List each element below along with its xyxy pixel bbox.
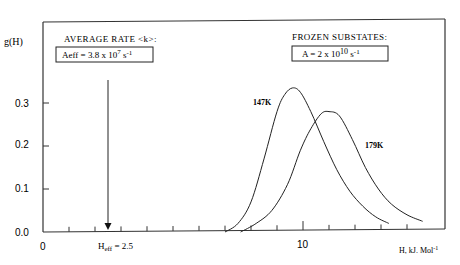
x-axis-label: H, kJ. Mol-1 [399,245,438,255]
y-tick-label-0.2: 0.2 [15,139,29,150]
aeff-text: Aeff = 3.8 x 107 s-1 [62,48,133,60]
y-tick-label-0.3: 0.3 [15,98,29,109]
curve-label-179k: 179K [365,141,384,150]
heff-label: Heff = 2.5 [98,241,133,253]
y-axis-label: g(H) [4,36,23,48]
x-tick-label-10: 10 [297,239,309,250]
average-rate-heading: AVERAGE RATE <k>: [64,34,157,44]
y-ticks [43,103,49,189]
a-text: A = 2 x 1010 s-1 [302,47,360,59]
y-tick-label-0: 0.0 [15,227,29,238]
curve-147k [225,88,389,232]
chart: 0.0 0.1 0.2 0.3 g(H) 0 10 H, kJ. Mol-1 A… [0,0,460,265]
heff-arrow [105,80,112,230]
x-tick-label-0: 0 [40,241,46,252]
frame-top [43,19,445,22]
y-tick-label-0.1: 0.1 [15,183,29,194]
curve-label-147k: 147K [253,98,272,107]
curve-179k [241,111,423,232]
frozen-substates-heading: FROZEN SUBSTATES: [292,32,387,42]
